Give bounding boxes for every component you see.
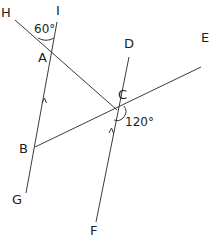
label-d: D [124, 36, 134, 51]
label-i: I [56, 3, 60, 18]
line-ig [26, 22, 57, 193]
angle-label-60: 60° [34, 22, 55, 36]
label-h: H [1, 5, 11, 20]
label-g: G [12, 192, 22, 207]
label-f: F [90, 223, 97, 237]
parallel-arrow-df [109, 128, 114, 133]
line-hc [15, 20, 117, 110]
angle-arc-60 [38, 38, 54, 40]
angle-label-120: 120° [125, 115, 154, 129]
label-c: C [118, 87, 127, 102]
label-a: A [38, 50, 47, 65]
label-b: B [19, 141, 28, 156]
line-be [35, 67, 201, 147]
geometry-diagram: H I A B C D E F G 60° 120° [0, 0, 212, 237]
line-df [96, 57, 129, 222]
label-e: E [201, 30, 209, 45]
